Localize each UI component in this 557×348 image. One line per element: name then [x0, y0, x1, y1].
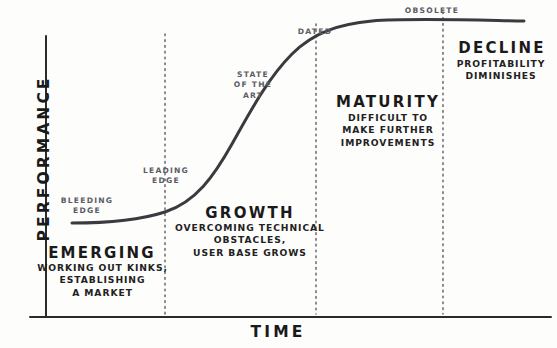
- stage-description-growth: OVERCOMING TECHNICAL OBSTACLES, USER BAS…: [174, 222, 326, 259]
- y-axis-title: PERFORMANCE: [34, 68, 55, 248]
- stage-title-maturity: MATURITY: [330, 92, 446, 112]
- annotation-leading-edge: LEADING EDGE: [126, 166, 206, 187]
- annotation-dated: DATED: [288, 27, 342, 37]
- annotation-obsolete: OBSOLETE: [396, 6, 468, 16]
- stage-title-decline: DECLINE: [452, 38, 552, 58]
- annotation-state-of-the-art: STATE OF THE ART: [212, 70, 294, 101]
- stage-title-emerging: EMERGING: [36, 243, 168, 263]
- stage-description-emerging: WORKING OUT KINKS, ESTABLISHING A MARKET: [30, 262, 175, 299]
- s-curve-chart: PERFORMANCE TIME BLEEDING EDGE LEADING E…: [0, 0, 557, 348]
- stage-description-maturity: DIFFICULT TO MAKE FURTHER IMPROVEMENTS: [327, 112, 449, 149]
- annotation-bleeding-edge: BLEEDING EDGE: [44, 196, 130, 217]
- x-axis-title: TIME: [213, 322, 343, 343]
- stage-description-decline: PROFITABILITY DIMINISHES: [445, 58, 557, 83]
- stage-title-growth: GROWTH: [188, 203, 312, 223]
